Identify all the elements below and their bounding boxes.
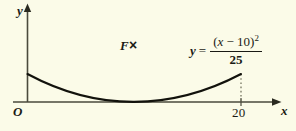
x-axis-label: x — [281, 104, 288, 117]
x-tick-label-20: 20 — [232, 106, 245, 119]
curve-equation: y = (x − 10)2 25 — [190, 33, 262, 68]
graph-figure: y x O 20 F × y = (x − 10)2 25 — [0, 0, 296, 131]
fraction-denominator: 25 — [227, 52, 246, 68]
equation-fraction: (x − 10)2 25 — [210, 33, 262, 68]
equation-relation: = — [199, 43, 206, 59]
numerator-exponent: 2 — [254, 33, 259, 43]
point-label-F: F — [120, 39, 129, 52]
cross-marker-icon: × — [129, 38, 137, 52]
parabola-curve — [28, 74, 242, 102]
fraction-numerator: (x − 10)2 — [210, 33, 262, 51]
numerator-constant: 10 — [237, 34, 250, 49]
y-axis-arrowhead — [24, 4, 31, 13]
numerator-minus: − — [227, 34, 234, 49]
equation-lhs: y — [190, 43, 196, 59]
origin-label: O — [13, 105, 22, 118]
numerator-variable: x — [217, 34, 223, 49]
y-axis-label: y — [17, 4, 23, 17]
